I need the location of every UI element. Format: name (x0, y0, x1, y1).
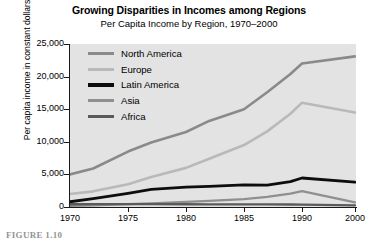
y-tick (64, 109, 69, 110)
x-tick (186, 207, 187, 212)
figure-container: Growing Disparities in Incomes among Reg… (0, 0, 378, 242)
legend-item-label: Africa (121, 111, 146, 122)
x-tick (302, 207, 303, 212)
x-tick-label: 1970 (50, 213, 90, 223)
legend-item-label: Latin America (121, 79, 179, 90)
y-tick-label: 15,000 (10, 103, 64, 113)
series-line (70, 204, 355, 205)
x-axis-line (69, 207, 357, 208)
y-tick (64, 207, 69, 208)
y-tick (64, 142, 69, 143)
figure-caption: FIGURE 1.10 (6, 230, 62, 240)
legend-swatch-line-icon (88, 115, 114, 118)
x-tick-label: 1985 (224, 213, 264, 223)
legend-item-label: North America (121, 48, 182, 59)
legend-item-africa[interactable]: Africa (88, 108, 182, 124)
x-tick (355, 207, 356, 212)
x-tick (128, 207, 129, 212)
legend-item-asia[interactable]: Asia (88, 93, 182, 109)
chart-subtitle: Per Capita Income by Region, 1970–2000 (0, 18, 378, 29)
y-tick (64, 174, 69, 175)
y-tick-label: 5,000 (10, 168, 64, 178)
x-tick-label: 1975 (108, 213, 148, 223)
y-tick-label: 0 (10, 201, 64, 211)
series-line (70, 178, 355, 202)
legend-item-europe[interactable]: Europe (88, 62, 182, 78)
chart-legend: North AmericaEuropeLatin AmericaAsiaAfri… (88, 46, 182, 124)
y-tick-label: 10,000 (10, 136, 64, 146)
legend-swatch-line-icon (88, 68, 114, 71)
legend-item-label: Europe (121, 64, 152, 75)
y-tick-label: 20,000 (10, 71, 64, 81)
legend-swatch-line-icon (88, 83, 114, 86)
x-tick-label: 2000 (335, 213, 375, 223)
legend-item-label: Asia (121, 95, 140, 106)
y-tick (64, 77, 69, 78)
legend-item-north-america[interactable]: North America (88, 46, 182, 62)
x-tick-label: 1990 (282, 213, 322, 223)
x-tick-label: 1980 (166, 213, 206, 223)
y-tick (64, 44, 69, 45)
legend-swatch-line-icon (88, 99, 114, 102)
x-tick (244, 207, 245, 212)
y-tick-label: 25,000 (10, 38, 64, 48)
legend-swatch-line-icon (88, 52, 114, 55)
chart-title: Growing Disparities in Incomes among Reg… (0, 4, 378, 16)
legend-item-latin-america[interactable]: Latin America (88, 77, 182, 93)
